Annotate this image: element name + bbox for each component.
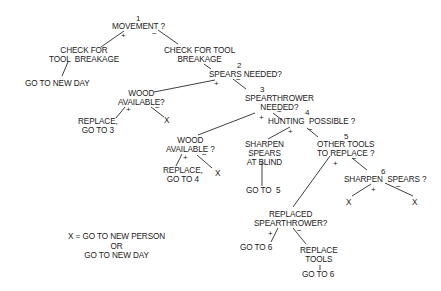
node-number-3: 3 <box>260 86 264 94</box>
node-spears-needed: SPEARS NEEDED? <box>209 70 282 79</box>
node-sharpen-spears-at-blind: SHARPEN SPEARS AT BLIND <box>245 140 284 167</box>
sign-minus: − <box>152 30 157 38</box>
node-number-2: 2 <box>237 62 241 70</box>
sign-minus: − <box>297 227 302 235</box>
node-number-4: 4 <box>305 109 309 117</box>
node-other-tools-to-replace: OTHER TOOLS TO REPLACE ? <box>317 140 374 158</box>
node-movement: MOVEMENT ? <box>112 22 165 31</box>
node-check-tool-breakage-left: CHECK FOR TOOL BREAKAGE <box>49 46 119 64</box>
sign-plus: + <box>214 80 219 88</box>
sign-plus: + <box>288 128 293 136</box>
edge-other-yes <box>293 156 330 207</box>
edge-check-spears <box>204 64 211 69</box>
node-replaced-spearthrower: REPLACED SPEARTHROWER? <box>254 210 327 228</box>
node-sharpen-spears: SHARPEN SPEARS ? <box>344 175 426 184</box>
sign-plus: + <box>259 114 264 122</box>
edge-movement-no <box>158 30 178 44</box>
sign-plus: + <box>371 186 376 194</box>
node-replace-tools: REPLACE TOOLS <box>300 246 338 264</box>
connector-lines <box>0 0 441 291</box>
sign-plus: + <box>183 154 188 162</box>
node-x-terminal: X <box>164 116 169 125</box>
sign-plus: + <box>126 106 131 114</box>
node-go-to-5: GO TO 5 <box>246 186 280 195</box>
sign-plus: + <box>268 230 273 238</box>
edge-check-newday <box>62 62 68 76</box>
legend-x-meaning: X = GO TO NEW PERSON OR GO TO NEW DAY <box>68 232 165 261</box>
sign-minus: − <box>202 151 207 159</box>
sign-plus: + <box>333 160 338 168</box>
sign-minus: − <box>277 108 282 116</box>
sign-plus: + <box>121 32 126 40</box>
node-replace-go-to-3: REPLACE, GO TO 3 <box>78 117 118 135</box>
node-x-terminal: X <box>346 198 351 207</box>
node-x-terminal: X <box>215 169 220 178</box>
node-go-to-new-day: GO TO NEW DAY <box>25 79 90 88</box>
node-wood-available-2: WOOD AVAILABLE ? <box>166 136 215 154</box>
sign-minus: − <box>396 183 401 191</box>
node-check-tool-breakage-right: CHECK FOR TOOL BREAKAGE <box>164 46 235 64</box>
edge-wood2-yes <box>176 154 182 166</box>
sign-minus: − <box>308 126 313 134</box>
node-replace-go-to-4: REPLACE, GO TO 4 <box>163 166 203 184</box>
sign-minus: − <box>352 155 357 163</box>
edge-hunt-yes <box>268 127 290 139</box>
sign-minus: − <box>155 104 160 112</box>
edge-st-yes <box>198 113 255 135</box>
edge-sharpen-yes <box>352 184 371 196</box>
node-go-to-6: GO TO 6 <box>240 243 272 252</box>
node-go-to-6: GO TO 6 <box>302 270 334 279</box>
sign-minus: − <box>236 76 241 84</box>
node-x-terminal: X <box>412 198 417 207</box>
